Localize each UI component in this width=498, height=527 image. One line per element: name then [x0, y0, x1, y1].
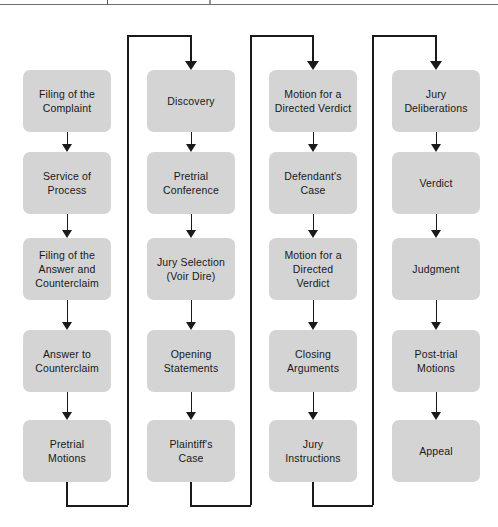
flow-node-n8[interactable]: Jury Selection (Voir Dire) — [147, 238, 235, 300]
flow-node-label: Service of Process — [43, 169, 91, 197]
arrow-shaft — [436, 300, 438, 323]
arrow-shaft — [67, 392, 69, 413]
arrow-shaft — [191, 214, 193, 231]
arrow-head-icon — [62, 322, 72, 330]
flow-arrow-down-n1 — [62, 132, 73, 152]
elbow-in-drop-4 — [435, 35, 437, 62]
elbow-out-right-1 — [66, 505, 128, 507]
elbow-in-arrowhead-2 — [185, 61, 197, 70]
flow-column-1: Filing of the ComplaintService of Proces… — [23, 0, 143, 527]
arrow-head-icon — [62, 230, 72, 238]
flow-node-label: Pretrial Conference — [163, 169, 219, 197]
elbow-in-top-3 — [250, 35, 313, 37]
flow-node-n3[interactable]: Filing of the Answer and Counterclaim — [23, 238, 111, 300]
flow-node-n6[interactable]: Discovery — [147, 70, 235, 132]
elbow-out-right-2 — [190, 505, 251, 507]
arrow-head-icon — [431, 322, 441, 330]
flow-node-n2[interactable]: Service of Process — [23, 152, 111, 214]
arrow-shaft — [313, 300, 315, 323]
flow-arrow-down-n3 — [62, 300, 73, 330]
arrow-head-icon — [308, 144, 318, 152]
arrow-head-icon — [431, 144, 441, 152]
flow-arrow-down-n16 — [431, 132, 442, 152]
flow-node-label: Opening Statements — [164, 347, 219, 375]
flow-arrow-down-n13 — [308, 300, 319, 330]
elbow-out-down-3 — [312, 482, 314, 505]
elbow-out-down-2 — [190, 482, 192, 505]
arrow-shaft — [191, 392, 193, 413]
flow-node-label: Post-trial Motions — [415, 347, 458, 375]
flow-arrow-down-n11 — [308, 132, 319, 152]
flow-node-label: Jury Selection (Voir Dire) — [157, 255, 225, 283]
flow-node-n16[interactable]: Jury Deliberations — [392, 70, 480, 132]
flow-node-n11[interactable]: Motion for a Directed Verdict — [269, 70, 357, 132]
elbow-in-rail-2 — [127, 35, 129, 505]
flow-node-n18[interactable]: Judgment — [392, 238, 480, 300]
flow-node-label: Jury Deliberations — [404, 87, 467, 115]
flow-node-n14[interactable]: Closing Arguments — [269, 330, 357, 392]
flow-node-label: Defendant's Case — [284, 169, 341, 197]
flow-node-n17[interactable]: Verdict — [392, 152, 480, 214]
arrow-head-icon — [62, 144, 72, 152]
flow-node-label: Jury Instructions — [285, 437, 341, 465]
elbow-in-rail-3 — [250, 35, 252, 505]
flow-node-n19[interactable]: Post-trial Motions — [392, 330, 480, 392]
arrow-shaft — [436, 214, 438, 231]
flowchart-canvas: Filing of the ComplaintService of Proces… — [0, 0, 498, 527]
flow-column-3: Motion for a Directed VerdictDefendant's… — [269, 0, 389, 527]
arrow-head-icon — [308, 412, 318, 420]
flow-arrow-down-n14 — [308, 392, 319, 420]
flow-column-4: Jury DeliberationsVerdictJudgmentPost-tr… — [392, 0, 498, 527]
elbow-in-drop-3 — [312, 35, 314, 62]
flow-node-n9[interactable]: Opening Statements — [147, 330, 235, 392]
flow-node-label: Verdict — [419, 176, 452, 190]
flow-node-n13[interactable]: Motion for a Directed Verdict — [269, 238, 357, 300]
flow-node-n15[interactable]: Jury Instructions — [269, 420, 357, 482]
flow-node-label: Answer to Counterclaim — [35, 347, 99, 375]
flow-arrow-down-n19 — [431, 392, 442, 420]
flow-arrow-down-n9 — [186, 392, 197, 420]
flow-node-n5[interactable]: Pretrial Motions — [23, 420, 111, 482]
arrow-head-icon — [308, 230, 318, 238]
flow-node-label: Motion for a Directed Verdict — [284, 248, 341, 290]
arrow-head-icon — [186, 322, 196, 330]
flow-arrow-down-n6 — [186, 132, 197, 152]
flow-node-label: Motion for a Directed Verdict — [275, 87, 352, 115]
arrow-shaft — [191, 300, 193, 323]
flow-arrow-down-n18 — [431, 300, 442, 330]
flow-node-n1[interactable]: Filing of the Complaint — [23, 70, 111, 132]
arrow-head-icon — [431, 412, 441, 420]
elbow-out-right-3 — [312, 505, 373, 507]
arrow-shaft — [313, 392, 315, 413]
flow-node-label: Pretrial Motions — [48, 437, 86, 465]
flow-column-2: DiscoveryPretrial ConferenceJury Selecti… — [147, 0, 267, 527]
arrow-head-icon — [431, 230, 441, 238]
arrow-shaft — [67, 300, 69, 323]
arrow-shaft — [313, 214, 315, 231]
arrow-head-icon — [308, 322, 318, 330]
flow-arrow-down-n12 — [308, 214, 319, 238]
arrow-head-icon — [186, 230, 196, 238]
elbow-in-drop-2 — [190, 35, 192, 62]
flow-node-n12[interactable]: Defendant's Case — [269, 152, 357, 214]
elbow-out-down-1 — [66, 482, 68, 505]
flow-arrow-down-n2 — [62, 214, 73, 238]
arrow-head-icon — [62, 412, 72, 420]
flow-node-label: Plaintiff's Case — [169, 437, 212, 465]
elbow-in-arrowhead-3 — [307, 61, 319, 70]
flow-arrow-down-n8 — [186, 300, 197, 330]
arrow-head-icon — [186, 412, 196, 420]
flow-node-n10[interactable]: Plaintiff's Case — [147, 420, 235, 482]
arrow-shaft — [436, 392, 438, 413]
flow-node-label: Filing of the Answer and Counterclaim — [35, 248, 99, 290]
elbow-in-top-2 — [127, 35, 191, 37]
elbow-in-rail-4 — [372, 35, 374, 505]
flow-node-label: Judgment — [412, 262, 459, 276]
flow-node-label: Filing of the Complaint — [39, 87, 95, 115]
elbow-in-top-4 — [372, 35, 436, 37]
flow-node-n7[interactable]: Pretrial Conference — [147, 152, 235, 214]
flow-arrow-down-n17 — [431, 214, 442, 238]
flow-node-label: Appeal — [419, 444, 453, 458]
flow-node-n20[interactable]: Appeal — [392, 420, 480, 482]
flow-node-n4[interactable]: Answer to Counterclaim — [23, 330, 111, 392]
